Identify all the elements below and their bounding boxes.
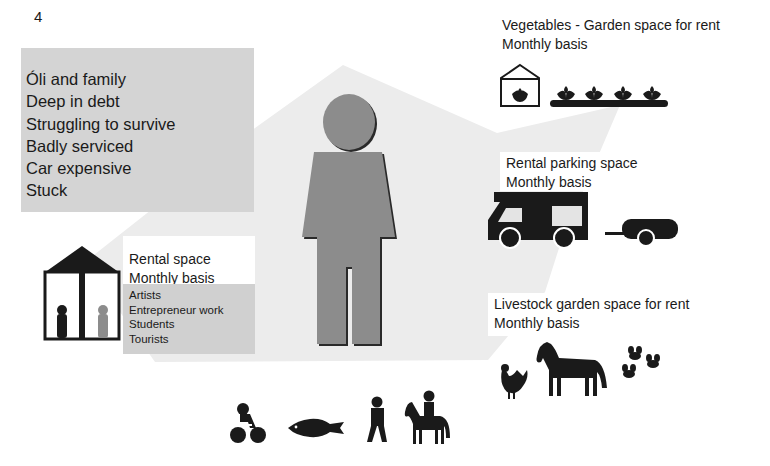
status-line: Car expensive: [26, 157, 254, 179]
status-line: Stuck: [26, 179, 254, 201]
rental-space-label: Rental space Monthly basis: [123, 236, 255, 284]
family-status-box: Óli and family Deep in debt Struggling t…: [21, 48, 254, 212]
status-line: Deep in debt: [26, 90, 254, 112]
chicken-horse-bees-icon: [495, 340, 665, 405]
status-line: Badly serviced: [26, 135, 254, 157]
fish-icon: [288, 418, 346, 438]
page-number: 4: [34, 8, 42, 25]
parking-label: Rental parking space Monthly basis: [500, 152, 642, 191]
horse-icon: [537, 342, 608, 396]
status-line: Óli and family: [26, 68, 254, 90]
livestock-label: Livestock garden space for rent Monthly …: [488, 293, 693, 336]
vegetables-label: Vegetables - Garden space for rent Month…: [502, 16, 720, 53]
vegetables-title: Vegetables - Garden space for rent: [502, 16, 720, 35]
audience-item: Artists: [129, 288, 255, 303]
bees-icon: [622, 346, 660, 378]
audience-item: Tourists: [129, 332, 255, 347]
parking-title: Rental parking space: [506, 154, 638, 173]
audience-item: Entrepreneur work: [129, 303, 255, 318]
horse-rider-icon: [404, 390, 452, 446]
livestock-title: Livestock garden space for rent: [494, 295, 689, 314]
chicken-icon: [501, 364, 528, 399]
status-line: Struggling to survive: [26, 113, 254, 135]
cyclist-icon: [230, 402, 266, 444]
walker-icon: [366, 396, 388, 444]
vegetables-subtitle: Monthly basis: [502, 35, 720, 54]
livestock-subtitle: Monthly basis: [494, 314, 689, 333]
audience-item: Students: [129, 317, 255, 332]
house-with-people-icon: [43, 246, 121, 341]
greenhouse-plants-icon: [500, 64, 670, 108]
parking-subtitle: Monthly basis: [506, 173, 638, 192]
person-icon: [300, 92, 400, 348]
rental-audience-list: Artists Entrepreneur work Students Touri…: [123, 284, 255, 354]
rental-space-title: Rental space: [129, 250, 255, 269]
camper-van-trailer-icon: [488, 192, 683, 248]
